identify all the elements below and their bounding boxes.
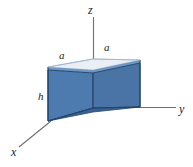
z-axis-label: z [88,4,93,16]
x-axis-line [19,121,51,147]
y-axis-label: y [179,103,184,115]
dimension-label-a-right: a [104,42,110,53]
dimension-label-a-left: a [59,50,65,61]
figure-container: z y x a a h [0,0,193,167]
prism-solid [48,59,140,121]
x-axis-label: x [11,146,16,158]
prism-diagram-svg [0,0,193,167]
dimension-label-h: h [38,91,44,102]
